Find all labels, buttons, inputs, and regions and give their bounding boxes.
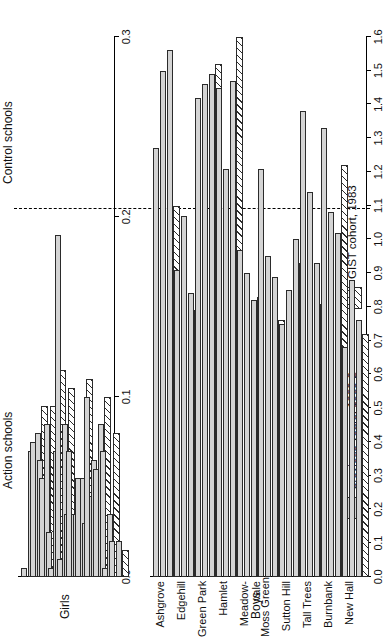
category-label-green-park: Green Park — [197, 581, 209, 637]
bar-girls-panel-meadow-vale-prev0 — [57, 559, 63, 577]
girls-panel-tick-label: 0.2 — [121, 203, 132, 231]
bar-boys-panel-new-hall-gist3 — [362, 334, 368, 577]
boys-panel-tick-label: 0.1 — [373, 529, 384, 557]
boys-panel-tick-label: 0.5 — [373, 394, 384, 422]
chart-figure: Girls Boys AshgroveEdgehillGreen ParkHam… — [0, 0, 387, 639]
category-label-tall-trees: Tall Trees — [302, 581, 314, 637]
bar-girls-panel-hamlet-prev1 — [55, 235, 61, 577]
boys-panel-tick-label: 1.3 — [373, 124, 384, 152]
bar-girls-panel-hamlet-prev0 — [48, 568, 54, 577]
boys-panel-tick-label: 0.4 — [373, 428, 384, 456]
bar-girls-panel-moss-green-prev0 — [66, 451, 72, 577]
bar-boys-panel-meadow-vale-prev1 — [244, 273, 250, 577]
girls-panel-tick-label: 0.1 — [121, 383, 132, 411]
boys-panel-tick-label: 1.2 — [373, 158, 384, 186]
legend-label-gist-cohort: GIST cohort, 1983 — [346, 185, 358, 279]
bar-boys-panel-new-hall-prev1 — [349, 280, 355, 577]
bar-boys-panel-sutton-hill-prev0 — [279, 324, 285, 577]
bar-boys-panel-meadow-vale-prev2 — [251, 300, 257, 577]
bar-girls-panel-new-hall-gist3 — [122, 550, 128, 577]
bar-girls-panel-new-hall-prev0 — [102, 568, 108, 577]
bar-boys-panel-green-park-prev1 — [202, 84, 208, 577]
bar-boys-panel-new-hall-prev0 — [342, 348, 348, 578]
bar-girls-panel-burnbank-prev0 — [93, 469, 99, 577]
bar-boys-panel-burnbank-prev1 — [328, 213, 334, 578]
bar-boys-panel-tall-trees-prev0 — [300, 111, 306, 577]
bar-boys-panel-ashgrove-prev2 — [167, 51, 173, 578]
bar-boys-panel-moss-green-prev0 — [258, 169, 264, 577]
boys-panel-tick-label: 0.0 — [373, 563, 384, 591]
category-label-ashgrove: Ashgrove — [155, 581, 167, 637]
boys-panel-tick-label: 0.8 — [373, 293, 384, 321]
boys-panel-tick-label: 0.2 — [373, 496, 384, 524]
bar-boys-panel-tall-trees-prev1 — [307, 192, 313, 577]
bar-boys-panel-edgehill-prev2 — [188, 294, 194, 578]
bar-girls-panel-tall-trees-prev0 — [84, 397, 90, 577]
category-label-burnbank: Burnbank — [323, 581, 335, 637]
bar-girls-panel-new-hall-prev2 — [116, 541, 122, 577]
girls-panel-tick-label: 0.3 — [121, 23, 132, 51]
action-control-divider — [14, 208, 370, 209]
rotated-figure-wrapper: Girls Boys AshgroveEdgehillGreen ParkHam… — [0, 0, 387, 639]
boys-panel-tick-label: 1.5 — [373, 57, 384, 85]
boys-panel-tick-label: 0.6 — [373, 361, 384, 389]
bar-boys-panel-tall-trees-prev2 — [314, 263, 320, 577]
bar-boys-panel-moss-green-prev2 — [272, 277, 278, 577]
boys-panel-tick-label: 1.1 — [373, 192, 384, 220]
category-label-new-hall: New Hall — [344, 581, 356, 637]
bar-boys-panel-moss-green-prev1 — [265, 256, 271, 577]
bar-boys-panel-hamlet-prev2 — [230, 81, 236, 577]
boys-panel-tick-label: 1.6 — [373, 23, 384, 51]
bar-boys-panel-hamlet-prev0 — [216, 88, 222, 577]
category-label-hamlet: Hamlet — [218, 581, 230, 637]
bar-boys-panel-burnbank-prev2 — [335, 233, 341, 577]
group-label-action-schools: Action schools — [2, 412, 14, 489]
category-label-edgehill: Edgehill — [176, 581, 188, 637]
group-label-control-schools: Control schools — [2, 101, 14, 184]
bar-boys-panel-green-park-prev2 — [209, 74, 215, 577]
bar-girls-panel-sutton-hill-prev0 — [75, 478, 81, 577]
boys-panel-tick-label: 0.9 — [373, 259, 384, 287]
boys-panel-tick-label: 1.4 — [373, 91, 384, 119]
bar-boys-panel-meadow-vale-prev0 — [237, 250, 243, 577]
bar-girls-panel-burnbank-prev1 — [100, 451, 106, 577]
bar-girls-panel-edgehill-prev0 — [30, 442, 36, 577]
boys-panel-tick-label: 1.0 — [373, 226, 384, 254]
bar-boys-panel-edgehill-prev1 — [181, 216, 187, 577]
bar-boys-panel-edgehill-prev0 — [174, 270, 180, 577]
bar-boys-panel-sutton-hill-prev1 — [286, 290, 292, 577]
bar-boys-panel-green-park-prev0 — [195, 98, 201, 577]
bar-boys-panel-ashgrove-prev0 — [153, 148, 159, 577]
bar-boys-panel-new-hall-prev2 — [356, 321, 362, 578]
bar-boys-panel-sutton-hill-prev2 — [293, 240, 299, 578]
boys-panel-tick-label: 0.3 — [373, 462, 384, 490]
bar-girls-panel-ashgrove-prev0 — [21, 568, 27, 577]
bar-girls-panel-green-park-prev0 — [39, 478, 45, 577]
bar-boys-panel-hamlet-prev1 — [223, 169, 229, 577]
boys-panel-tick-label: 0.7 — [373, 327, 384, 355]
girls-axis-title: Girls — [59, 594, 71, 619]
category-label-moss-green: Moss Green — [260, 581, 272, 637]
bar-girls-panel-new-hall-prev1 — [109, 541, 115, 577]
bar-boys-panel-ashgrove-prev1 — [160, 71, 166, 577]
bar-boys-panel-burnbank-prev0 — [321, 128, 327, 577]
category-label-sutton-hill: Sutton Hill — [281, 581, 293, 637]
